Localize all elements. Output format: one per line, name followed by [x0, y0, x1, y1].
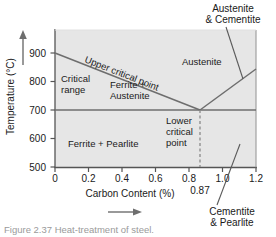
y-tick-label-600: 600 [29, 133, 46, 144]
y-tick-label-800: 800 [29, 76, 46, 87]
y-tick-label-900: 900 [29, 48, 46, 59]
region-label-ferrite-austenite-line2: Austenite [110, 90, 150, 101]
up-arrow-icon [19, 30, 27, 65]
y-axis-ticks [51, 53, 56, 167]
eutectoid-value-label: 0.87 [190, 185, 210, 196]
iron-carbon-phase-diagram: 900 800 700 600 500 0 0.2 0.4 0.6 0.8 1.… [0, 0, 276, 237]
x-tick-label-0-6: 0.6 [149, 173, 163, 184]
x-tick-label-0: 0 [52, 173, 58, 184]
region-label-lower-critical-line3: point [166, 137, 187, 148]
callout-austenite-cementite-line2: & Cementite [205, 14, 260, 25]
region-label-ferrite-pearlite: Ferrite + Pearlite [68, 138, 139, 149]
region-label-lower-critical-line2: critical [166, 126, 193, 137]
right-arrow-icon [108, 208, 142, 215]
callout-cementite-pearlite-line1: Cementite [209, 206, 255, 217]
phase-diagram-figure: 900 800 700 600 500 0 0.2 0.4 0.6 0.8 1.… [0, 0, 276, 237]
region-label-austenite: Austenite [182, 56, 222, 67]
x-tick-label-1-2: 1.2 [249, 173, 263, 184]
region-label-critical-range-line2: range [61, 84, 85, 95]
x-tick-label-0-2: 0.2 [82, 173, 96, 184]
x-tick-label-0-4: 0.4 [115, 173, 129, 184]
x-tick-label-0-8: 0.8 [182, 173, 196, 184]
figure-caption: Figure 2.37 Heat-treatment of steel. [4, 224, 154, 235]
callout-austenite-cementite-line1: Austenite [212, 3, 254, 14]
y-axis-title: Temperature (°C) [5, 58, 16, 135]
region-label-lower-critical-line1: Lower [166, 115, 192, 126]
x-axis-title: Carbon Content (%) [86, 188, 175, 199]
region-label-critical-range-line1: Critical [61, 73, 90, 84]
x-axis-ticks [55, 168, 256, 173]
x-tick-label-1-0: 1.0 [216, 173, 230, 184]
callout-cementite-pearlite-line2: & Pearlite [210, 217, 254, 228]
y-tick-label-500: 500 [29, 162, 46, 173]
y-tick-label-700: 700 [29, 105, 46, 116]
